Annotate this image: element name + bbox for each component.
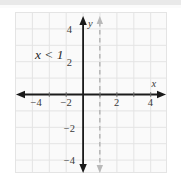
x-tick-label-2: 2 <box>114 97 119 108</box>
x-tick-label-neg4: −4 <box>31 97 43 108</box>
inequality-graph-figure: −4 −2 2 4 4 2 −2 −4 x y x < 1 <box>0 0 181 184</box>
x-tick-label-neg2: −2 <box>61 97 72 108</box>
inequality-annotation: x < 1 <box>34 47 64 62</box>
y-tick-label-neg4: −4 <box>64 155 76 166</box>
x-axis-label: x <box>151 78 157 89</box>
y-tick-label-neg2: −2 <box>64 123 75 134</box>
coordinate-plane-svg: −4 −2 2 4 4 2 −2 −4 x y x < 1 <box>0 0 181 184</box>
y-axis-label: y <box>87 18 93 29</box>
y-tick-label-2: 2 <box>67 57 72 68</box>
y-tick-label-4: 4 <box>67 24 73 35</box>
grid-background <box>15 12 167 173</box>
x-tick-label-4: 4 <box>148 97 154 108</box>
